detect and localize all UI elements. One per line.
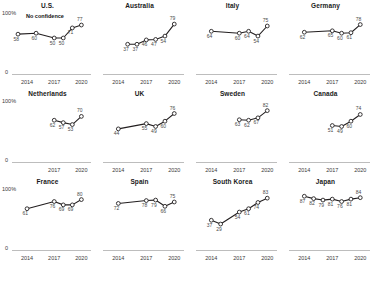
series-line-no-confidence [279,90,372,178]
data-point-value-label: 66 [160,209,166,215]
data-point-value-label: 60 [160,124,166,130]
data-point-value-label: 74 [253,205,259,211]
data-point-value-label: 54 [235,215,241,221]
x-axis-tick-label: 2017 [137,79,155,85]
panel-spain: Spain7278796675201420172020 [93,178,186,266]
data-point-value-label: 80 [77,192,83,198]
x-axis-tick-label: 2017 [45,167,63,173]
data-point-value-label: 64 [244,34,250,40]
x-axis-tick-label: 2014 [202,255,220,261]
x-axis-tick-label: 2014 [109,255,127,261]
data-point-value-label: 67 [253,120,259,126]
x-axis-tick-label: 2020 [351,255,369,261]
data-point-value-label: 57 [59,125,65,131]
data-point-marker [358,23,362,27]
x-axis-tick-label: 2014 [295,167,313,173]
data-point-value-label: 76 [170,106,176,112]
series-line-no-confidence [2,90,93,178]
x-axis-tick-label: 2014 [202,79,220,85]
data-point-value-label: 77 [77,17,83,23]
data-point-marker [79,198,83,202]
x-axis-tick-label: 2017 [230,255,248,261]
x-axis-tick-label: 2014 [109,167,127,173]
panel-germany: Germany6265606178201420172020 [279,2,372,90]
data-point-marker [265,109,269,113]
series-line-no-confidence [93,90,186,178]
data-point-value-label: 37 [207,223,213,229]
data-point-value-label: 49 [151,129,157,135]
data-point-value-label: 61 [244,211,250,217]
data-point-value-label: 61 [346,35,352,41]
data-point-value-label: 74 [356,106,362,112]
panel-netherlands: Netherlands100%06257537020172020 [2,90,93,178]
data-point-value-label: 75 [170,194,176,200]
data-point-value-label: 69 [68,207,74,213]
data-point-value-label: 82 [309,201,315,207]
panel-sweden: Sweden63626782201420172020 [186,90,279,178]
data-point-value-label: 79 [151,203,157,209]
data-point-value-label: 81 [328,202,334,208]
data-point-marker [358,113,362,117]
x-axis-tick-label: 2014 [18,255,36,261]
x-axis-tick-label: 2020 [72,79,90,85]
data-point-value-label: 58 [14,37,20,43]
x-axis-tick-label: 2017 [137,255,155,261]
data-point-value-label: 78 [356,17,362,23]
x-axis-tick-label: 2017 [230,79,248,85]
panel-u-s: U.S.100%0586050507177201420172020No conf… [2,2,93,90]
data-point-marker [172,112,176,116]
data-point-marker [172,22,176,26]
data-point-value-label: 37 [132,47,138,53]
data-point-value-label: 71 [68,30,74,36]
data-point-value-label: 47 [151,42,157,48]
data-point-value-label: 69 [59,207,65,213]
x-axis-tick-label: 2020 [72,167,90,173]
data-point-marker [265,24,269,28]
panel-uk: UK4455496076201420172020 [93,90,186,178]
x-axis-tick-label: 2017 [230,167,248,173]
data-point-value-label: 46 [142,42,148,48]
data-point-value-label: 51 [328,128,334,134]
data-point-value-label: 50 [59,41,65,47]
x-axis-tick-label: 2020 [258,79,276,85]
data-point-marker [265,196,269,200]
data-point-value-label: 61 [23,211,29,217]
data-point-value-label: 44 [114,131,120,137]
data-point-value-label: 50 [50,41,56,47]
data-point-value-label: 79 [318,203,324,209]
data-point-value-label: 37 [123,47,129,53]
x-axis-tick-label: 2020 [165,79,183,85]
data-point-value-label: 54 [160,39,166,45]
data-point-value-label: 70 [77,108,83,114]
x-axis-tick-label: 2014 [295,255,313,261]
data-point-value-label: 62 [244,123,250,129]
data-point-marker [358,196,362,200]
data-point-value-label: 62 [50,123,56,129]
data-point-marker [79,115,83,119]
data-point-marker [79,23,83,27]
x-axis-tick-label: 2020 [351,167,369,173]
x-axis-tick-label: 2020 [258,255,276,261]
data-point-value-label: 76 [50,204,56,210]
data-point-value-label: 78 [142,203,148,209]
x-axis-tick-label: 2020 [258,167,276,173]
data-point-value-label: 83 [263,190,269,196]
small-multiples-line-chart-figure: U.S.100%0586050507177201420172020No conf… [0,0,372,282]
panel-italy: Italy6460645475201420172020 [186,2,279,90]
x-axis-tick-label: 2020 [351,79,369,85]
data-point-value-label: 65 [328,33,334,39]
x-axis-tick-label: 2014 [18,79,36,85]
data-point-value-label: 54 [253,39,259,45]
data-point-value-label: 84 [356,190,362,196]
x-axis-tick-label: 2014 [109,79,127,85]
series-annotation-no-confidence: No confidence [26,13,64,19]
data-point-value-label: 49 [337,129,343,135]
x-axis-tick-label: 2017 [323,79,341,85]
panel-australia: Australia373746475479201420172020 [93,2,186,90]
series-line-no-confidence [186,2,279,90]
data-point-value-label: 64 [207,34,213,40]
data-point-value-label: 76 [337,204,343,210]
x-axis-tick-label: 2017 [137,167,155,173]
data-point-value-label: 53 [68,127,74,133]
data-point-value-label: 55 [142,126,148,132]
